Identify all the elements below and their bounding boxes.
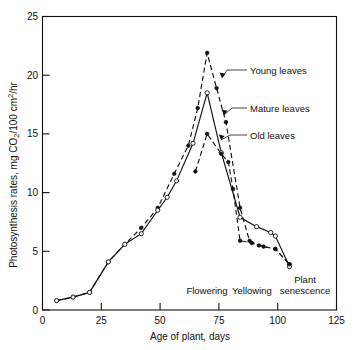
annotation-flowering: Flowering (186, 285, 227, 296)
data-point (187, 144, 191, 148)
plot-frame (43, 17, 337, 311)
series-label-young-leaves: Young leaves (250, 65, 307, 76)
data-point (262, 245, 266, 249)
series-line-0 (57, 53, 290, 301)
series-label-mature-leaves: Mature leaves (250, 103, 310, 114)
annotation-plant-senescence-line2: senescence (280, 285, 331, 296)
annotation-plant-senescence-line1: Plant (294, 274, 316, 285)
series-mature-leaves (55, 91, 292, 303)
data-point (106, 260, 110, 264)
x-tick-label-125: 125 (328, 315, 345, 326)
data-point (205, 132, 209, 136)
x-tick-label-100: 100 (269, 315, 286, 326)
annotation-yellowing: Yellowing (232, 285, 272, 296)
y-tick-label-0: 0 (32, 305, 38, 316)
data-point (174, 179, 178, 183)
data-point (269, 230, 273, 234)
data-point (87, 290, 91, 294)
data-point (172, 172, 176, 176)
data-point (196, 106, 200, 110)
data-point (71, 295, 75, 299)
data-point (215, 86, 219, 90)
y-tick-label-15: 15 (27, 128, 39, 139)
series-layer (55, 51, 292, 303)
data-point (165, 195, 169, 199)
data-point (156, 208, 160, 212)
x-tick-label-25: 25 (96, 315, 108, 326)
x-tick-label-50: 50 (155, 315, 167, 326)
data-point (274, 247, 278, 251)
y-axis-tick-labels: 0 5 10 15 20 25 (27, 11, 39, 316)
y-axis-title-suffix: /hr (8, 82, 19, 94)
data-point (273, 234, 277, 238)
photosynthesis-rate-chart: 0 5 10 15 20 25 0 25 50 75 100 125 Age o… (0, 0, 358, 350)
data-point (55, 299, 59, 303)
data-point (205, 51, 209, 55)
y-tick-label-25: 25 (27, 11, 39, 22)
data-point (250, 241, 254, 245)
y-tick-label-5: 5 (32, 246, 38, 257)
series-callouts (221, 70, 247, 140)
data-point (238, 206, 242, 210)
data-point (194, 170, 198, 174)
y-tick-label-10: 10 (27, 187, 39, 198)
data-point (139, 226, 143, 230)
x-tick-label-75: 75 (213, 315, 225, 326)
mature-leaves-callout-line (224, 108, 247, 115)
callout-arrowheads (219, 73, 228, 141)
y-axis-title-prefix: Photosynthesis rates, mg CO (8, 138, 19, 268)
data-point (227, 160, 231, 164)
data-point (231, 187, 235, 191)
old-leaves-callout-line (221, 135, 247, 140)
x-axis-title: Age of plant, days (150, 331, 230, 342)
series-line-2 (195, 134, 289, 264)
data-point (191, 141, 195, 145)
y-axis-title: Photosynthesis rates, mg CO2/100 cm2/hr (6, 82, 22, 268)
y-axis-ticks (43, 17, 50, 311)
data-point (224, 120, 228, 124)
x-axis-tick-labels: 0 25 50 75 100 125 (40, 315, 346, 326)
data-point (238, 239, 242, 243)
series-label-old-leaves: Old leaves (250, 130, 295, 141)
data-point (205, 91, 209, 95)
young-leaves-callout-line (222, 70, 247, 78)
data-point (254, 225, 258, 229)
chart-canvas: 0 5 10 15 20 25 0 25 50 75 100 125 Age o… (0, 0, 358, 350)
data-point (139, 232, 143, 236)
series-line-1 (57, 93, 290, 301)
data-point (219, 152, 223, 156)
series-old-leaves (194, 132, 292, 266)
y-axis-title-middle: /100 cm (8, 98, 19, 134)
x-axis-ticks (43, 303, 337, 310)
y-tick-label-20: 20 (27, 70, 39, 81)
data-point (288, 262, 292, 266)
data-point (238, 215, 242, 219)
series-young-leaves (55, 51, 291, 302)
data-point (123, 242, 127, 246)
x-tick-label-0: 0 (40, 315, 46, 326)
